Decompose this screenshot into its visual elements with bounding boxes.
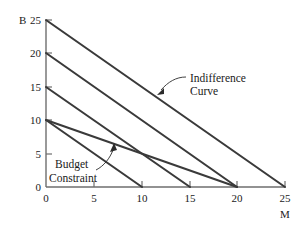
budget-constraint-label-line2: Constraint <box>49 172 98 184</box>
y-tick-label-10: 10 <box>30 114 42 126</box>
y-tick-label-0: 0 <box>36 181 42 193</box>
x-tick-label-25: 25 <box>280 192 292 204</box>
y-tick-label-5: 5 <box>36 148 42 160</box>
x-tick-label-5: 5 <box>91 192 97 204</box>
x-tick-label-0: 0 <box>43 192 49 204</box>
x-axis-title: M <box>280 208 290 220</box>
indifference-arrow-head <box>157 88 164 95</box>
y-axis-title: B <box>19 14 26 26</box>
indifference-curve-label-line1: Indifference <box>190 72 246 84</box>
x-tick-label-20: 20 <box>232 192 244 204</box>
chart-plot-area: B 25 20 15 10 5 0 0 5 10 15 20 25 M Indi… <box>0 0 303 231</box>
y-tick-label-20: 20 <box>30 47 42 59</box>
x-tick-label-10: 10 <box>137 192 149 204</box>
indifference-leader-line <box>161 77 186 90</box>
x-tick-label-15: 15 <box>185 192 197 204</box>
y-tick-label-25: 25 <box>30 14 42 26</box>
y-tick-label-15: 15 <box>30 81 42 93</box>
budget-constraint-label-line1: Budget <box>55 158 89 171</box>
indifference-curve-label-line2: Curve <box>190 85 218 97</box>
chart-figure: B 25 20 15 10 5 0 0 5 10 15 20 25 M Indi… <box>0 0 303 231</box>
